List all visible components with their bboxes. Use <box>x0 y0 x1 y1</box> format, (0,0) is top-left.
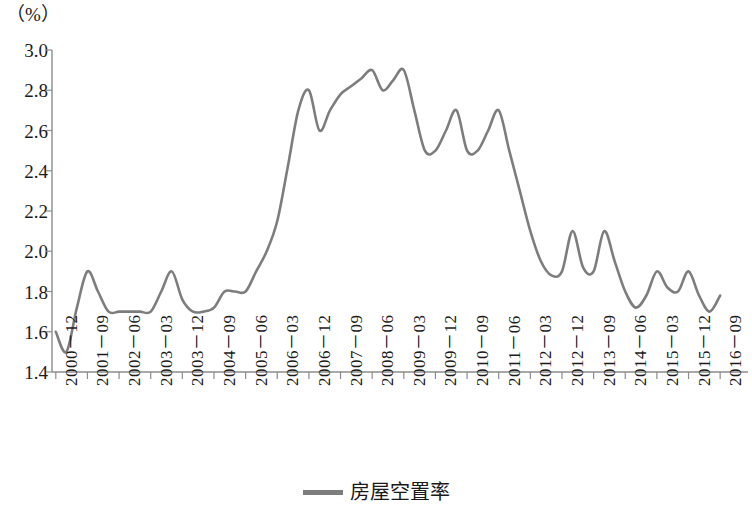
x-axis-tick-label: 2016－09 <box>727 315 744 387</box>
legend-label: 房屋空置率 <box>350 481 450 503</box>
x-axis-tick-label: 2007－09 <box>348 315 365 387</box>
x-axis-tick-label: 2011－06 <box>506 315 523 386</box>
x-axis-tick-label: 2003－12 <box>189 315 206 387</box>
chart-figure: （%） 3.02.82.62.42.22.01.81.61.4 2000－122… <box>0 0 752 509</box>
x-axis-tick-label: 2000－12 <box>63 315 80 387</box>
x-axis-tick-label: 2006－03 <box>284 315 301 387</box>
x-axis-tick-label: 2006－12 <box>316 315 333 387</box>
x-axis-tick-label: 2003－03 <box>158 315 175 387</box>
x-axis-tick-label: 2001－09 <box>94 315 111 387</box>
x-axis-tick-label: 2002－06 <box>126 315 143 387</box>
x-axis-tick-label: 2008－06 <box>379 315 396 387</box>
x-axis-tick-label: 2014－06 <box>632 315 649 387</box>
x-axis-tick-labels: 2000－122001－092002－062003－032003－122004－… <box>0 0 752 509</box>
x-axis-tick-label: 2004－09 <box>221 315 238 387</box>
x-axis-tick-label: 2012－03 <box>537 315 554 387</box>
x-axis-tick-label: 2015－12 <box>696 315 713 387</box>
line-swatch-icon <box>303 490 343 495</box>
x-axis-tick-label: 2015－03 <box>664 315 681 387</box>
x-axis-tick-label: 2013－09 <box>601 315 618 387</box>
x-axis-tick-label: 2012－12 <box>569 315 586 387</box>
chart-legend: 房屋空置率 <box>0 481 752 503</box>
x-axis-tick-label: 2010－09 <box>474 315 491 387</box>
x-axis-tick-label: 2009－03 <box>411 315 428 387</box>
x-axis-tick-label: 2009－12 <box>442 315 459 387</box>
x-axis-tick-label: 2005－06 <box>253 315 270 387</box>
